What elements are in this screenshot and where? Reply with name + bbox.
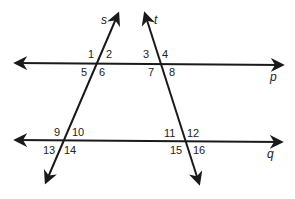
angle-2-label: 2	[106, 48, 112, 60]
line-s	[46, 14, 118, 182]
line-p-label: p	[269, 70, 277, 84]
angle-11-label: 11	[164, 127, 175, 139]
angle-15-label: 15	[170, 144, 182, 156]
angle-4-label: 4	[162, 48, 168, 60]
angle-5-label: 5	[81, 66, 87, 78]
diagram-canvas: s t p q 1 2 5 6 3 4 7 8 9 10 13 14 11 12…	[0, 0, 295, 199]
angle-6-label: 6	[99, 66, 105, 78]
angle-13-label: 13	[43, 144, 55, 156]
angle-1-label: 1	[88, 48, 94, 60]
angle-14-label: 14	[64, 144, 76, 156]
angle-3-label: 3	[143, 48, 149, 60]
line-q-label: q	[267, 147, 274, 161]
angle-8-label: 8	[169, 66, 175, 78]
angle-10-label: 10	[72, 126, 84, 138]
line-t-label: t	[154, 13, 158, 27]
line-p	[16, 63, 282, 65]
angle-12-label: 12	[187, 127, 199, 139]
line-t	[145, 14, 199, 183]
line-q	[16, 140, 281, 142]
angle-7-label: 7	[148, 66, 154, 78]
angle-9-label: 9	[54, 126, 60, 138]
angle-16-label: 16	[193, 144, 205, 156]
line-s-label: s	[101, 13, 107, 27]
